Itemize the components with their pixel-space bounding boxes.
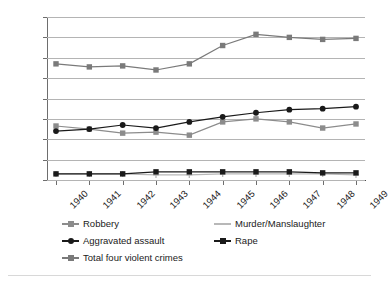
- x-tick-mark: [189, 181, 190, 185]
- x-tick-mark: [223, 181, 224, 185]
- x-tick-label: 1942: [134, 188, 157, 211]
- x-tick-label: 1948: [334, 188, 357, 211]
- x-tick-label: 1944: [201, 188, 224, 211]
- gridline: [47, 78, 365, 79]
- x-tick-mark: [89, 181, 90, 185]
- x-tick-label: 1946: [267, 188, 290, 211]
- gridline: [47, 139, 365, 140]
- y-tick-mark: [43, 119, 47, 120]
- y-tick-mark: [43, 160, 47, 161]
- x-tick-mark: [289, 181, 290, 185]
- y-tick-mark: [43, 78, 47, 79]
- x-tick-mark: [256, 181, 257, 185]
- legend-label: Robbery: [83, 219, 119, 229]
- x-tick-mark: [156, 181, 157, 185]
- gridline: [47, 58, 365, 59]
- legend-marker-icon: [214, 219, 231, 228]
- gridline: [47, 119, 365, 120]
- legend-item-rape[interactable]: Rape: [214, 236, 258, 246]
- x-tick-mark: [323, 181, 324, 185]
- legend-marker-icon: [62, 219, 79, 228]
- legend-label: Total four violent crimes: [83, 253, 183, 263]
- x-tick-mark: [123, 181, 124, 185]
- y-tick-mark: [43, 37, 47, 38]
- gridline: [47, 99, 365, 100]
- legend-item-robbery[interactable]: Robbery: [62, 219, 119, 229]
- y-tick-mark: [43, 180, 47, 181]
- legend-item-murder-manslaughter[interactable]: Murder/Manslaughter: [214, 219, 325, 229]
- gridline: [47, 17, 365, 18]
- legend-marker-icon: [62, 253, 79, 262]
- x-tick-label: 1949: [367, 188, 390, 211]
- y-tick-mark: [43, 17, 47, 18]
- gridline: [47, 180, 365, 181]
- legend-label: Aggravated assault: [83, 236, 164, 246]
- legend-label: Murder/Manslaughter: [235, 219, 325, 229]
- y-tick-mark: [43, 139, 47, 140]
- x-tick-label: 1940: [67, 188, 90, 211]
- footer-divider: [8, 275, 371, 276]
- x-tick-label: 1943: [167, 188, 190, 211]
- y-tick-mark: [43, 99, 47, 100]
- legend-marker-icon: [62, 236, 79, 245]
- x-tick-label: 1945: [234, 188, 257, 211]
- legend-marker-icon: [214, 236, 231, 245]
- x-tick-mark: [56, 181, 57, 185]
- legend-label: Rape: [235, 236, 258, 246]
- chart-legend: RobberyMurder/ManslaughterAggravated ass…: [62, 219, 362, 267]
- gridline: [47, 160, 365, 161]
- x-tick-mark: [356, 181, 357, 185]
- legend-item-aggravated-assault[interactable]: Aggravated assault: [62, 236, 164, 246]
- legend-item-total-four-violent-crimes[interactable]: Total four violent crimes: [62, 253, 183, 263]
- x-tick-label: 1947: [301, 188, 324, 211]
- gridline: [47, 37, 365, 38]
- x-tick-label: 1941: [101, 188, 124, 211]
- y-tick-mark: [43, 58, 47, 59]
